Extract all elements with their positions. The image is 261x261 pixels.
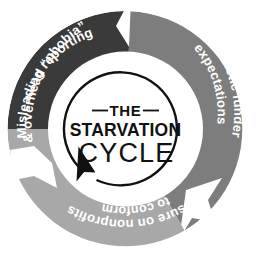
center-title-cycle: CYCLE <box>78 138 174 168</box>
center-emblem: THE STARVATION CYCLE <box>64 68 187 190</box>
center-title-starvation: STARVATION <box>70 120 182 140</box>
starvation-cycle-diagram: Misleading reporting & overhead “phobia”… <box>0 0 261 261</box>
cycle-diagram-svg: Misleading reporting & overhead “phobia”… <box>0 0 261 261</box>
center-title-the: THE <box>110 102 142 119</box>
